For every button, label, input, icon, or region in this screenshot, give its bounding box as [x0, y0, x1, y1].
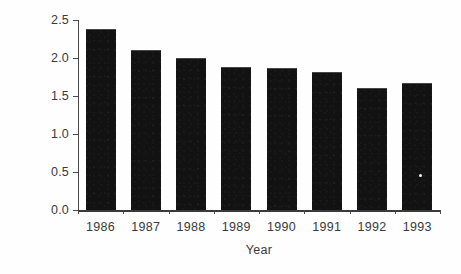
y-tick-label: 1.0	[51, 127, 69, 141]
plot-area: 0.0 0.5 1.0 1.5 2.0 2.5	[78, 20, 440, 210]
x-tick-mark	[395, 210, 396, 214]
bar-1988	[176, 58, 206, 210]
x-tick-mark	[440, 210, 441, 214]
x-tick-label-1989: 1989	[222, 220, 251, 234]
bar-chart-figure: Rate per 100,000 0.0 0.5 1.0 1.5 2.0 2.5	[0, 0, 461, 274]
y-tick-label: 2.0	[51, 51, 69, 65]
x-tick-mark	[259, 210, 260, 214]
y-tick-label: 0.0	[51, 203, 69, 217]
bar-1991	[312, 72, 342, 210]
bar-1990	[267, 68, 297, 210]
x-tick-label-1990: 1990	[267, 220, 296, 234]
bar-1989	[221, 67, 251, 210]
y-tick-mark	[73, 96, 78, 97]
x-tick-mark	[350, 210, 351, 214]
x-tick-mark	[304, 210, 305, 214]
x-tick-label-1991: 1991	[312, 220, 341, 234]
y-tick-mark	[73, 20, 78, 21]
x-tick-label-1993: 1993	[403, 220, 432, 234]
bar-1993	[402, 83, 432, 210]
x-tick-mark	[123, 210, 124, 214]
y-tick-mark	[73, 58, 78, 59]
y-axis-line	[78, 20, 79, 210]
y-tick-mark	[73, 134, 78, 135]
x-tick-label-1988: 1988	[177, 220, 206, 234]
x-tick-label-1992: 1992	[358, 220, 387, 234]
y-tick-mark	[73, 172, 78, 173]
y-tick-label: 1.5	[51, 89, 69, 103]
x-axis-title: Year	[78, 243, 440, 257]
y-tick-label: 2.5	[51, 13, 69, 27]
bar-1986	[86, 29, 116, 210]
y-tick-label: 0.5	[51, 165, 69, 179]
x-tick-mark	[78, 210, 79, 214]
x-tick-mark	[214, 210, 215, 214]
x-tick-mark	[169, 210, 170, 214]
x-tick-label-1986: 1986	[86, 220, 115, 234]
bar-1987	[131, 50, 161, 210]
bar-1992	[357, 88, 387, 210]
x-tick-label-1987: 1987	[131, 220, 160, 234]
